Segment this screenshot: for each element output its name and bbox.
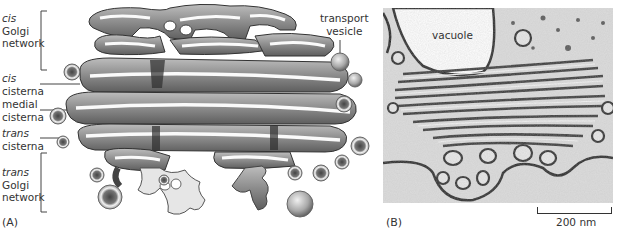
label-trans-cisterna: trans cisterna [2,127,44,152]
scale-bar [537,207,612,214]
trans-cisterna-shape [78,124,347,152]
micrograph-image [383,8,613,203]
transport-vesicle-shape [331,53,349,71]
panel-label-a: (A) [2,216,18,229]
label-trans-golgi-network: trans Golgi network [2,166,45,204]
label-cis-golgi-network: cis Golgi network [2,12,45,50]
panel-label-b: (B) [386,216,402,229]
scale-bar-label: 200 nm [556,216,596,228]
medial-cisterna-shape [66,92,356,124]
cis-golgi-network-shape [89,4,334,56]
label-vacuole: vacuole [432,29,473,42]
label-cis-cisterna: cis cisterna [2,72,44,97]
cis-cisterna-shape [80,58,348,92]
label-transport-vesicle: transport vesicle [320,12,369,37]
label-medial-cisterna: medial cisterna [2,98,44,123]
trans-golgi-network-shape [105,148,295,214]
